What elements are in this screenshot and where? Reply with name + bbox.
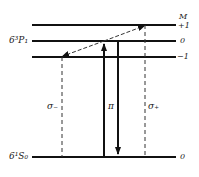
lower-state-label: 6¹S₀ — [9, 152, 28, 161]
m-label-0-upper: 0 — [180, 37, 185, 45]
m-label-minus1: −1 — [177, 53, 189, 61]
m-label-0-ground: 0 — [180, 153, 185, 161]
diag-arrow-up — [104, 26, 144, 41]
m-label-plus1: +1 — [178, 22, 190, 30]
sigma-plus-label: σ₊ — [148, 102, 159, 111]
pi-label: π — [108, 102, 114, 111]
diagram-lines — [0, 0, 199, 177]
m-header-label: M — [179, 13, 187, 21]
upper-state-label: 6³P₁ — [9, 36, 28, 45]
diag-arrow-down — [63, 41, 104, 56]
zeeman-diagram: 6³P₁ 6¹S₀ M +1 0 −1 0 σ₋ π σ₊ — [0, 0, 199, 177]
sigma-minus-label: σ₋ — [47, 102, 58, 111]
